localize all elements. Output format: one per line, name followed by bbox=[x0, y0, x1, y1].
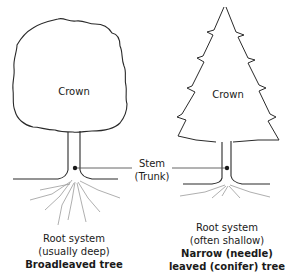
broadleaf-root-depth: (usually deep) bbox=[24, 246, 124, 258]
broadleaf-root-label: Root system bbox=[24, 233, 124, 245]
broadleaf-roots bbox=[30, 180, 120, 225]
conifer-trunk bbox=[183, 141, 270, 184]
broadleaf-trunk bbox=[13, 131, 118, 179]
conifer-root-depth: (often shallow) bbox=[175, 235, 279, 247]
broadleaf-title: Broadleaved tree bbox=[20, 259, 128, 271]
conifer-crown-label: Crown bbox=[203, 89, 253, 101]
conifer-root-label: Root system bbox=[175, 222, 279, 234]
conifer-title-line2: leaved (conifer) tree bbox=[168, 261, 286, 273]
conifer-title-line1: Narrow (needle) bbox=[175, 248, 279, 260]
stem-label: Stem bbox=[130, 158, 174, 170]
conifer-crown-outline bbox=[177, 7, 279, 142]
trunk-label: (Trunk) bbox=[130, 171, 174, 183]
broadleaf-crown-outline bbox=[13, 19, 127, 133]
broadleaf-crown-label: Crown bbox=[49, 86, 99, 98]
stem-point-conifer bbox=[225, 166, 229, 170]
conifer-roots bbox=[180, 185, 270, 198]
stem-point-broadleaf bbox=[73, 166, 77, 170]
